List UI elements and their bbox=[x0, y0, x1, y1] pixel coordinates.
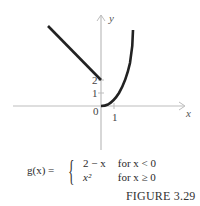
y-axis-label: y bbox=[108, 12, 114, 24]
figure-caption: FIGURE 3.29 bbox=[126, 189, 196, 204]
function-graph: y x 0 1 1 2 bbox=[0, 0, 200, 150]
y-tick-label-2: 2 bbox=[92, 74, 98, 86]
formula-case-1: 2 − x for x < 0 bbox=[83, 157, 156, 170]
formula-lhs: g(x) = bbox=[27, 164, 54, 177]
origin-label: 0 bbox=[93, 105, 99, 117]
case-1-condition: for x < 0 bbox=[118, 157, 156, 169]
case-2-condition: for x ≥ 0 bbox=[118, 171, 156, 183]
formula-case-2: x² for x ≥ 0 bbox=[83, 171, 156, 184]
y-tick-label-1: 1 bbox=[92, 87, 98, 99]
left-brace: { bbox=[68, 155, 74, 185]
line-segment-2-minus-x bbox=[48, 26, 101, 80]
parabola-x-squared bbox=[101, 30, 133, 106]
case-1-expression: 2 − x bbox=[83, 157, 115, 170]
case-2-expression: x² bbox=[83, 171, 115, 184]
x-axis-label: x bbox=[185, 107, 191, 119]
x-tick-label-1: 1 bbox=[112, 111, 118, 123]
